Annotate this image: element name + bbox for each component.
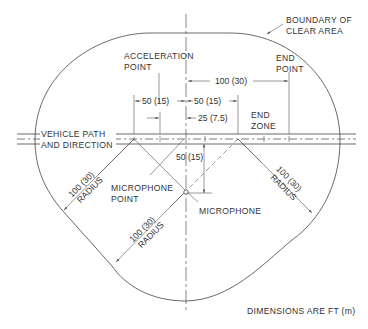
site-layout-diagram: 100 (30) 50 (15) 50 (15) 25 (7.5) 50 (15… [0, 0, 368, 329]
microphone-point-label: MICROPHONE POINT [111, 183, 173, 204]
dim-mic-offset: 50 (15) [176, 144, 212, 193]
svg-text:END: END [276, 53, 295, 63]
microphone-label: MICROPHONE [199, 206, 261, 216]
svg-text:100 (30): 100 (30) [215, 76, 247, 86]
svg-text:MICROPHONE: MICROPHONE [111, 183, 173, 193]
svg-text:50 (15): 50 (15) [194, 96, 221, 106]
units-note: DIMENSIONS ARE FT (m) [247, 306, 355, 316]
svg-text:25 (7.5): 25 (7.5) [198, 113, 228, 123]
svg-text:ACCELERATION: ACCELERATION [124, 51, 194, 61]
svg-text:CLEAR AREA: CLEAR AREA [286, 26, 343, 36]
vehicle-path-label: VEHICLE PATH AND DIRECTION [40, 128, 116, 150]
svg-text:POINT: POINT [276, 64, 304, 74]
svg-text:POINT: POINT [111, 194, 139, 204]
svg-text:50 (15): 50 (15) [176, 152, 203, 162]
svg-text:50 (15): 50 (15) [142, 96, 169, 106]
svg-text:POINT: POINT [124, 62, 152, 72]
radius-right: 100 (30) RADIUS [262, 163, 312, 213]
svg-text:BOUNDARY OF: BOUNDARY OF [286, 15, 352, 25]
svg-text:VEHICLE PATH: VEHICLE PATH [41, 129, 105, 139]
end-zone-label: END ZONE [251, 110, 276, 131]
acceleration-point-label: ACCELERATION POINT [124, 51, 194, 72]
boundary-label: BOUNDARY OF CLEAR AREA [267, 15, 352, 36]
end-point-label: END POINT [276, 53, 304, 74]
dim-quarter-offset: 25 (7.5) [147, 112, 228, 134]
radius-lower-left: 100 (30) RADIUS [116, 207, 170, 262]
svg-text:AND DIRECTION: AND DIRECTION [41, 140, 113, 150]
svg-text:ZONE: ZONE [251, 121, 276, 131]
microphone-icon [184, 190, 188, 194]
svg-text:END: END [251, 110, 270, 120]
